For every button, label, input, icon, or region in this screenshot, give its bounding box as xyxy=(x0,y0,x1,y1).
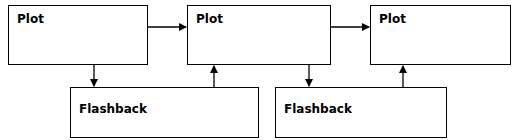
connector-layer xyxy=(0,0,517,140)
